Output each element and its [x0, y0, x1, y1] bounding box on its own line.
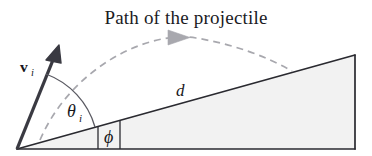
launch-angle-symbol: θ — [67, 101, 76, 121]
diagram-title: Path of the projectile — [104, 7, 267, 28]
launch-angle-label: θ i — [67, 101, 82, 124]
diagram-canvas: Path of the projectile v i θ i ϕ d — [0, 0, 372, 156]
launch-angle-subscript: i — [79, 112, 82, 124]
range-distance-label: d — [176, 81, 185, 100]
projectile-on-incline-diagram: Path of the projectile v i θ i ϕ d — [0, 0, 372, 156]
initial-velocity-label: v i — [20, 58, 34, 78]
incline-angle-label: ϕ — [104, 127, 113, 147]
initial-velocity-subscript: i — [31, 67, 34, 78]
initial-velocity-symbol: v — [20, 58, 28, 75]
initial-velocity-vector-arrowhead — [46, 45, 61, 63]
projectile-direction-arrowhead — [168, 30, 190, 45]
